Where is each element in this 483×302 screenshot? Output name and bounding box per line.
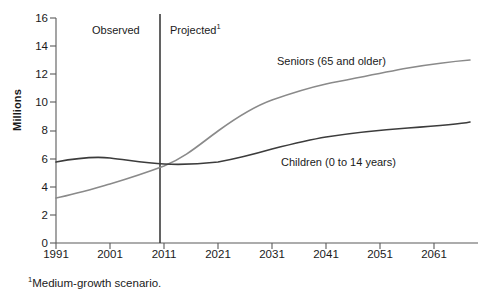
projected-region-text: Projected	[170, 24, 216, 36]
series-line-children	[56, 122, 470, 164]
series-line-seniors	[56, 60, 470, 198]
projected-footnote-marker: 1	[216, 22, 220, 31]
y-tick-marks	[50, 18, 56, 243]
observed-region-text: Observed	[92, 24, 140, 36]
population-projection-chart: Millions 16 14 12 10 8 6 4 2 0 1991 2001…	[0, 0, 483, 302]
x-tick-marks	[56, 243, 434, 249]
observed-region-label: Observed	[92, 24, 140, 36]
plot-area	[0, 0, 483, 302]
projected-region-label: Projected1	[170, 24, 221, 36]
series-label-children: Children (0 to 14 years)	[281, 156, 396, 168]
series-label-seniors: Seniors (65 and older)	[277, 55, 386, 67]
footnote-text: Medium-growth scenario.	[32, 277, 161, 289]
chart-footnote: 1Medium-growth scenario.	[28, 277, 161, 290]
